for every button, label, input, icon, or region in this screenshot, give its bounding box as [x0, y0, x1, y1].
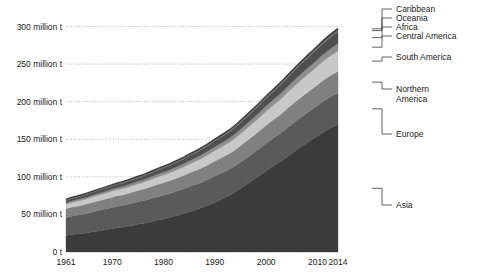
chart-svg: 0 t50 million t100 million t150 million … — [0, 0, 490, 277]
y-axis-tick-label: 100 million t — [17, 172, 63, 182]
x-axis-tick-label: 2000 — [257, 257, 276, 267]
y-axis-tick-label: 150 million t — [17, 134, 63, 144]
legend-label-asia[interactable]: Asia — [396, 200, 413, 210]
legend-label-south-america[interactable]: South America — [396, 52, 452, 62]
y-axis-labels-group: 0 t50 million t100 million t150 million … — [17, 22, 63, 257]
y-axis-tick-label: 200 million t — [17, 97, 63, 107]
y-axis-tick-label: 0 t — [53, 247, 63, 257]
legend-label-central-america[interactable]: Central America — [396, 31, 457, 41]
x-axis-labels-group: 1961197019801990200020102014 — [57, 257, 348, 267]
x-axis-tick-label: 1990 — [205, 257, 224, 267]
y-axis-tick-label: 250 million t — [17, 59, 63, 69]
legend-connector-south-america — [372, 57, 392, 61]
legend-label-europe[interactable]: Europe — [396, 129, 424, 139]
legend-label-northern-america[interactable]: NorthernAmerica — [396, 84, 429, 104]
y-axis-tick-label: 50 million t — [21, 209, 62, 219]
legend-connector-asia — [372, 188, 392, 205]
legend-group: CaribbeanOceaniaAfricaCentral AmericaSou… — [372, 4, 457, 210]
x-axis-tick-label: 2014 — [329, 257, 348, 267]
stacked-area-chart: 0 t50 million t100 million t150 million … — [0, 0, 490, 277]
y-axis-tick-label: 300 million t — [17, 22, 63, 32]
area-series-group — [66, 28, 338, 252]
x-axis-tick-label: 1961 — [57, 257, 76, 267]
legend-connector-europe — [372, 109, 392, 134]
x-axis-tick-label: 2010 — [308, 257, 327, 267]
x-axis-tick-label: 1980 — [154, 257, 173, 267]
x-axis-tick-label: 1970 — [103, 257, 122, 267]
legend-connector-northern-america — [372, 82, 392, 89]
